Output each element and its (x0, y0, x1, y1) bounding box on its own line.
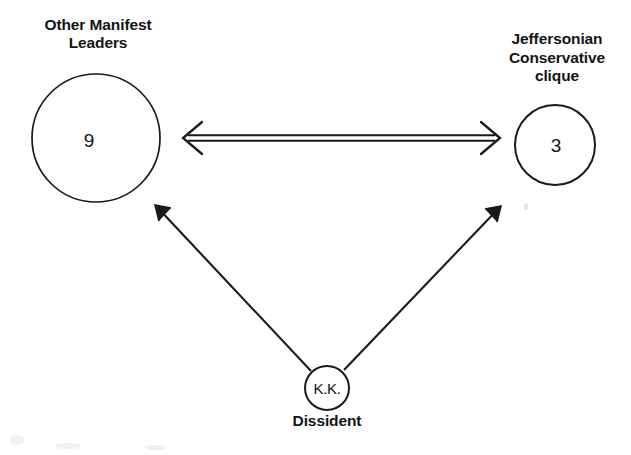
node-circle-other-manifest-leaders (32, 74, 160, 202)
node-label-jeffersonian-conservative-clique: Jeffersonian Conservative clique (486, 30, 628, 86)
sociogram-diagram: Other Manifest Leaders 9 Jeffersonian Co… (0, 0, 631, 455)
edge-dissident-clique (344, 206, 501, 370)
edge-dissident-leaders (155, 205, 311, 371)
edge-leaders-clique-arrowhead-left (183, 122, 202, 154)
scan-artifact (524, 203, 528, 210)
scan-artifact (146, 445, 166, 450)
edge-dissident-leaders-stem (157, 207, 311, 371)
node-value-dissident: K.K. (313, 380, 340, 397)
node-value-jeffersonian-conservative-clique: 3 (551, 135, 562, 157)
node-label-other-manifest-leaders: Other Manifest Leaders (6, 16, 190, 52)
node-label-dissident: Dissident (262, 412, 392, 430)
edge-dissident-clique-stem (344, 208, 499, 370)
edge-leaders-clique (183, 122, 500, 154)
scan-artifact (55, 443, 81, 449)
edge-leaders-clique-arrowhead-right (481, 122, 500, 154)
node-value-other-manifest-leaders: 9 (84, 130, 95, 152)
scan-artifact (10, 436, 24, 444)
